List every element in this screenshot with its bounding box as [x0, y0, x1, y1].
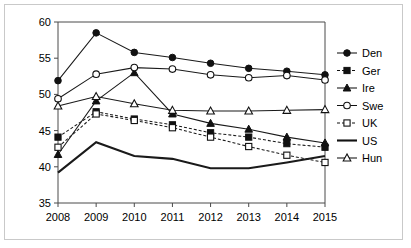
legend-label-us: US [362, 135, 377, 147]
y-axis-tick-group: 354045505560 [39, 16, 58, 209]
data-point-swe-2012 [207, 72, 214, 79]
data-point-ger-2008 [55, 134, 61, 140]
legend-label-uk: UK [362, 117, 378, 129]
x-tick-label: 2015 [313, 211, 337, 223]
data-point-uk-2014 [284, 152, 290, 158]
legend-swatch-marker-den [344, 50, 351, 57]
y-tick-label: 50 [39, 88, 51, 100]
data-point-den-2009 [93, 30, 100, 37]
data-point-hun-2015 [321, 106, 329, 113]
data-point-uk-2009 [93, 111, 99, 117]
y-tick-label: 55 [39, 52, 51, 64]
x-tick-label: 2011 [161, 211, 185, 223]
data-point-ger-2013 [246, 134, 252, 140]
data-point-swe-2010 [131, 64, 138, 71]
x-tick-label: 2013 [236, 211, 260, 223]
legend-label-swe: Swe [362, 100, 383, 112]
x-tick-label: 2009 [84, 211, 108, 223]
data-point-ger-2014 [284, 141, 290, 147]
legend-label-ger: Ger [362, 65, 381, 77]
legend-label-hun: Hun [362, 152, 382, 164]
data-point-swe-2014 [284, 72, 291, 79]
data-point-hun-2009 [92, 93, 100, 100]
x-tick-label: 2012 [198, 211, 222, 223]
data-point-den-2008 [55, 77, 62, 84]
data-point-uk-2013 [246, 143, 252, 149]
data-point-uk-2010 [131, 117, 137, 123]
data-point-uk-2015 [322, 159, 328, 165]
data-point-swe-2013 [245, 74, 252, 81]
x-axis-tick-group: 20082009201020112012201320142015 [46, 203, 337, 223]
y-tick-label: 40 [39, 161, 51, 173]
legend-item-uk[interactable]: UK [337, 117, 378, 129]
legend-label-den: Den [362, 47, 382, 59]
data-point-uk-2011 [169, 125, 175, 131]
chart-figure: 354045505560 200820092010201120122013201… [4, 4, 403, 240]
data-point-den-2013 [245, 65, 252, 72]
legend-item-ger[interactable]: Ger [337, 65, 381, 77]
y-tick-label: 45 [39, 125, 51, 137]
legend-swatch-marker-swe [344, 102, 351, 109]
y-tick-label: 35 [39, 197, 51, 209]
data-point-uk-2012 [207, 134, 213, 140]
series-group [54, 30, 329, 173]
legend-item-hun[interactable]: Hun [337, 152, 382, 164]
chart-legend: DenGerIreSweUKUSHun [337, 47, 383, 164]
data-point-swe-2011 [169, 66, 176, 73]
x-tick-label: 2008 [46, 211, 70, 223]
data-point-den-2010 [131, 49, 138, 56]
legend-item-ire[interactable]: Ire [337, 82, 375, 94]
y-tick-label: 60 [39, 16, 51, 28]
x-tick-label: 2010 [122, 211, 146, 223]
data-point-den-2011 [169, 54, 176, 61]
legend-swatch-marker-ger [344, 67, 350, 73]
legend-item-us[interactable]: US [337, 135, 377, 147]
legend-swatch-marker-uk [344, 120, 350, 126]
line-chart: 354045505560 200820092010201120122013201… [5, 5, 404, 241]
data-point-den-2012 [207, 60, 214, 67]
data-point-swe-2015 [322, 77, 329, 84]
x-tick-label: 2014 [275, 211, 299, 223]
data-point-uk-2008 [55, 144, 61, 150]
legend-item-den[interactable]: Den [337, 47, 382, 59]
legend-item-swe[interactable]: Swe [337, 100, 383, 112]
data-point-swe-2009 [93, 71, 100, 78]
legend-label-ire: Ire [362, 82, 375, 94]
